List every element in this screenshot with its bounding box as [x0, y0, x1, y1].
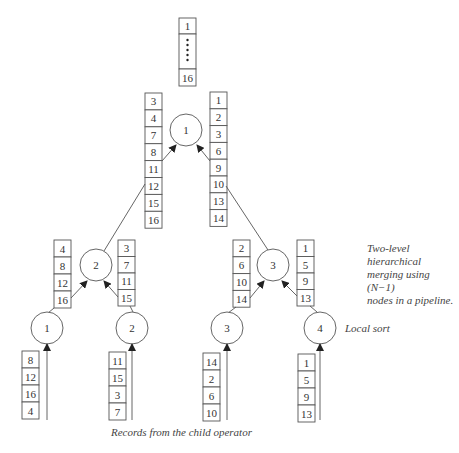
svg-text:3: 3: [224, 322, 230, 334]
record-value: 16: [57, 294, 69, 306]
record-value: 10: [236, 276, 248, 288]
record-value: 9: [216, 162, 222, 174]
record-value: 15: [121, 292, 133, 304]
merge-node-2-left-input: 481216: [54, 240, 71, 308]
svg-text:2: 2: [129, 322, 135, 334]
record-value: 4: [28, 405, 34, 417]
record-value: 16: [148, 214, 160, 226]
root-left-input-column: 347811121516: [145, 93, 162, 228]
record-value: 14: [206, 356, 218, 368]
record-value: 14: [213, 212, 225, 224]
record-value: 4: [60, 243, 66, 255]
root-merge-node: 1: [170, 114, 202, 146]
leaf-3-input-column: 142610: [203, 353, 220, 421]
record-value: 15: [148, 197, 160, 209]
record-value: 8: [60, 260, 66, 272]
record-value: 10: [206, 407, 218, 419]
record-value: 13: [300, 292, 312, 304]
merge-node-2-right-input: 371115: [118, 240, 135, 306]
edge-arrow: [197, 145, 210, 161]
record-value: 12: [57, 277, 68, 289]
record-value: 1: [216, 94, 222, 106]
merge-node-3-right-input: 15913: [297, 240, 314, 306]
records-from-child-label: Records from the child operator: [111, 426, 252, 439]
edge-line: [130, 306, 133, 312]
record-value: 15: [112, 372, 124, 384]
record-value: 12: [25, 371, 36, 383]
svg-text:4: 4: [317, 322, 323, 334]
leaf-node-1: 1: [31, 312, 63, 344]
merge-node-3: 3: [257, 249, 289, 281]
record-value: 10: [213, 178, 225, 190]
edge-arrow: [162, 145, 176, 161]
record-value: 7: [115, 406, 121, 418]
figure-caption: Two-level hierarchical merging using (N−…: [367, 242, 459, 307]
leaf-4-input-column: 15913: [298, 354, 315, 422]
record-value: 1: [303, 242, 309, 254]
record-value: 6: [239, 259, 245, 271]
record-value: 3: [216, 128, 222, 140]
caption-line: merging using (N−1): [367, 268, 459, 294]
record-value: 3: [124, 242, 130, 254]
svg-text:3: 3: [270, 259, 276, 271]
edge-arrow: [282, 281, 297, 296]
edge-line: [310, 306, 317, 312]
record-value: 3: [151, 95, 157, 107]
record-value: 13: [213, 195, 225, 207]
record-value: 5: [304, 374, 310, 386]
record-value: 7: [151, 129, 157, 141]
record-value: 14: [236, 293, 248, 305]
caption-line: Two-level hierarchical: [367, 242, 459, 268]
caption-line: nodes in a pipeline.: [367, 294, 459, 307]
record-value: 5: [303, 259, 309, 271]
record-value: 8: [28, 354, 34, 366]
leaf-node-2: 2: [116, 312, 148, 344]
record-value: 11: [121, 275, 132, 287]
output-last: 16: [182, 72, 194, 84]
leaf-1-input-column: 812164: [22, 351, 39, 419]
record-value: 8: [151, 146, 157, 158]
output-first: 1: [185, 20, 191, 32]
record-value: 6: [209, 390, 215, 402]
output-column: 1 16: [179, 18, 196, 86]
merge-node-3-left-input: 261014: [233, 240, 250, 307]
leaf-node-3: 3: [211, 312, 243, 344]
record-value: 11: [112, 355, 123, 367]
record-value: 7: [124, 259, 130, 271]
record-value: 9: [304, 391, 310, 403]
record-value: 11: [148, 163, 159, 175]
edge-arrow: [71, 281, 87, 298]
record-value: 16: [25, 388, 37, 400]
edge-arrow: [104, 281, 118, 297]
record-value: 2: [209, 373, 215, 385]
record-value: 4: [151, 112, 157, 124]
record-value: 2: [216, 111, 222, 123]
record-value: 12: [148, 180, 159, 192]
svg-text:1: 1: [44, 322, 50, 334]
local-sort-label: Local sort: [345, 322, 390, 335]
record-value: 2: [239, 242, 245, 254]
edge-arrow: [250, 281, 264, 298]
record-value: 9: [303, 275, 309, 287]
record-value: 13: [301, 408, 313, 420]
root-right-input-column: 12369101314: [210, 92, 227, 226]
svg-text:2: 2: [93, 259, 99, 271]
merge-node-2: 2: [80, 249, 112, 281]
svg-text:1: 1: [183, 124, 189, 136]
record-value: 1: [304, 357, 310, 369]
record-value: 3: [115, 389, 121, 401]
leaf-2-input-column: 111537: [109, 352, 126, 420]
hierarchical-merge-diagram: 1 16 1 347811121516 12369101314 2 481216…: [0, 0, 459, 453]
record-value: 6: [216, 145, 222, 157]
leaf-node-4: 4: [304, 312, 336, 344]
